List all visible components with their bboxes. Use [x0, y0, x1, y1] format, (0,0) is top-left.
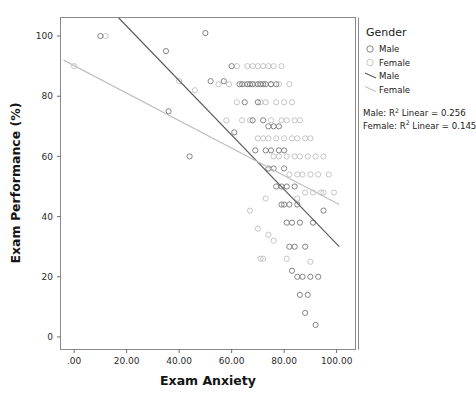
data-point — [224, 118, 229, 123]
x-tick-label: 20.00 — [114, 356, 140, 366]
data-point — [245, 64, 250, 69]
legend-label: Male — [379, 44, 399, 54]
legend-line-female — [365, 87, 376, 92]
data-point — [187, 154, 192, 159]
data-point — [321, 208, 326, 213]
data-point — [305, 292, 310, 297]
data-point — [247, 208, 252, 213]
x-tick-label: 40.00 — [166, 356, 192, 366]
data-point — [303, 310, 308, 315]
data-point — [292, 244, 297, 249]
legend-marker-male — [367, 46, 373, 52]
x-tick-label: 80.00 — [271, 356, 297, 366]
data-point — [300, 274, 305, 279]
data-point — [103, 33, 108, 38]
data-point — [316, 274, 321, 279]
data-point — [308, 136, 313, 141]
data-point — [261, 136, 266, 141]
data-point — [98, 33, 103, 38]
data-point — [297, 154, 302, 159]
y-tick-label: 40 — [42, 212, 54, 222]
x-tick-label: .00 — [67, 356, 82, 366]
data-point — [268, 118, 273, 123]
data-point — [284, 220, 289, 225]
data-point — [279, 118, 284, 123]
data-point — [166, 109, 171, 114]
data-point — [303, 244, 308, 249]
data-point — [263, 196, 268, 201]
data-point — [284, 256, 289, 261]
data-series-male — [98, 30, 326, 327]
fit-line-male — [119, 18, 340, 247]
data-point — [268, 148, 273, 153]
data-point — [289, 268, 294, 273]
data-point — [255, 64, 260, 69]
data-point — [295, 136, 300, 141]
data-point — [276, 124, 281, 129]
y-axis-title: Exam Performance (%) — [8, 103, 23, 264]
data-series-female — [72, 33, 337, 264]
data-point — [282, 148, 287, 153]
data-point — [271, 154, 276, 159]
data-point — [261, 118, 266, 123]
data-point — [234, 64, 239, 69]
data-point — [221, 79, 226, 84]
plot-canvas: .0020.0040.0060.0080.00100.00 0204060801… — [0, 0, 476, 397]
legend-label: Female — [379, 58, 410, 68]
legend-marker-female — [367, 59, 373, 65]
data-point — [313, 154, 318, 159]
data-point — [203, 30, 208, 35]
data-point — [268, 82, 273, 87]
data-point — [297, 220, 302, 225]
data-point — [274, 184, 279, 189]
data-point — [266, 232, 271, 237]
data-point — [308, 259, 313, 264]
data-point — [282, 136, 287, 141]
data-point — [313, 322, 318, 327]
y-tick-label: 80 — [42, 91, 54, 101]
y-axis-tick-labels: 020406080100 — [36, 31, 53, 342]
plot-frame — [61, 18, 356, 350]
data-point — [308, 172, 313, 177]
data-point — [284, 118, 289, 123]
data-point — [261, 64, 266, 69]
data-point — [192, 88, 197, 93]
data-point — [234, 100, 239, 105]
data-point — [229, 64, 234, 69]
data-point — [274, 136, 279, 141]
data-point — [292, 154, 297, 159]
data-point — [276, 148, 281, 153]
legend-label: Male — [379, 71, 399, 81]
data-point — [289, 220, 294, 225]
data-point — [308, 274, 313, 279]
x-axis-title: Exam Anxiety — [160, 373, 256, 388]
data-point — [297, 118, 302, 123]
legend-r-squared-annotations: Male: R2 Linear = 0.256Female: R2 Linear… — [363, 107, 476, 131]
data-point — [295, 274, 300, 279]
y-tick-label: 60 — [42, 152, 54, 162]
data-point — [331, 190, 336, 195]
data-point — [255, 136, 260, 141]
legend-title: Gender — [366, 26, 407, 39]
data-point — [282, 166, 287, 171]
data-point — [274, 100, 279, 105]
r-squared-annotation: Male: R2 Linear = 0.256 — [363, 107, 466, 118]
data-point — [289, 100, 294, 105]
data-point — [266, 64, 271, 69]
data-point — [279, 64, 284, 69]
data-point — [295, 172, 300, 177]
data-point — [297, 292, 302, 297]
legend-entries: MaleFemaleMaleFemale — [365, 44, 410, 95]
scatter-plot-figure: .0020.0040.0060.0080.00100.00 0204060801… — [0, 0, 476, 397]
data-point — [263, 100, 268, 105]
data-point — [271, 238, 276, 243]
data-point — [321, 154, 326, 159]
data-point — [266, 124, 271, 129]
data-point — [208, 79, 213, 84]
y-tick-label: 100 — [36, 31, 53, 41]
data-point — [287, 202, 292, 207]
y-tick-label: 0 — [47, 332, 53, 342]
data-point — [289, 136, 294, 141]
x-axis-tick-labels: .0020.0040.0060.0080.00100.00 — [67, 356, 353, 366]
data-point — [163, 49, 168, 54]
